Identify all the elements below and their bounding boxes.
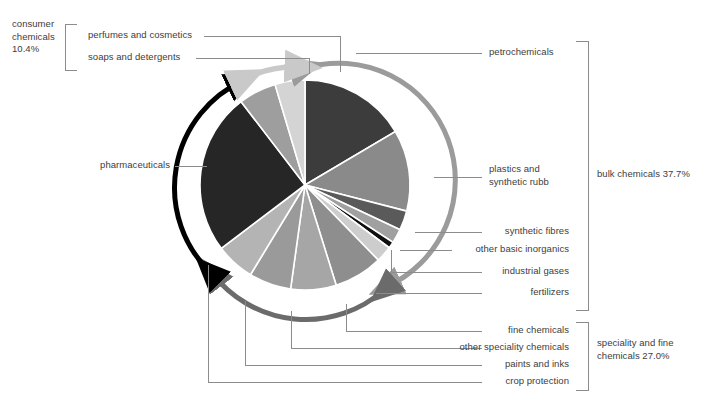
- slice-label-paints-and-inks: paints and inks: [389, 358, 569, 371]
- slice-label-industrial-gases: industrial gases: [389, 265, 569, 278]
- chart-canvas: consumer chemicals 10.4% perfumes and co…: [0, 0, 718, 414]
- slice-label-petrochemicals: petrochemicals: [489, 46, 554, 59]
- slice-label-other-speciality-chemicals: other speciality chemicals: [369, 341, 569, 354]
- slice-label-crop-protection: crop protection: [389, 375, 569, 388]
- bracket-speciality-and-fine-chemicals: [576, 322, 588, 390]
- pie-slices: [200, 80, 410, 290]
- slice-label-other-basic-inorganics: other basic inorganics: [389, 243, 569, 256]
- slice-label-plastics-and-synthetic-rubber: plastics and synthetic rubb: [489, 163, 549, 188]
- group-label-bulk-chemicals: bulk chemicals 37.7%: [597, 168, 690, 181]
- bracket-bulk-chemicals: [576, 41, 588, 310]
- bracket-consumer-chemicals: [65, 24, 77, 70]
- slice-label-perfumes-and-cosmetics: perfumes and cosmetics: [88, 29, 192, 42]
- slice-label-fine-chemicals: fine chemicals: [389, 324, 569, 337]
- group-label-consumer-chemicals: consumer chemicals 10.4%: [12, 18, 55, 56]
- slice-label-synthetic-fibres: synthetic fibres: [389, 225, 569, 238]
- slice-label-fertilizers: fertilizers: [389, 286, 569, 299]
- group-label-speciality-and-fine-chemicals: speciality and fine chemicals 27.0%: [597, 337, 673, 362]
- slice-label-pharmaceuticals: pharmaceuticals: [0, 159, 170, 172]
- slice-label-soaps-and-detergents: soaps and detergents: [88, 51, 180, 64]
